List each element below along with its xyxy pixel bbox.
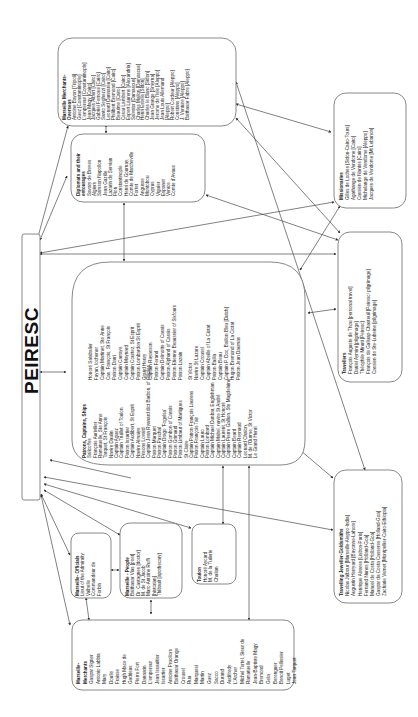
- node-item: Captain Delmotte of Cassis: [160, 324, 165, 380]
- node-item: Antoine Pruollors: [168, 648, 173, 684]
- node-item: Luget: [286, 672, 291, 684]
- node-item: Antonio Labbia: [96, 653, 101, 684]
- node-item: M. de St Jacob: [141, 565, 146, 596]
- node-item: François de Galluap-Chasteuil [Peiresc/ …: [366, 269, 371, 374]
- node-travellers[interactable]: TravellersFrançois Auguste de Thou [pers…: [338, 232, 402, 382]
- node-item: Samson Napollon: [97, 159, 102, 196]
- node-item: Leonard Chalon,: [243, 424, 248, 458]
- node-item: Patron Alphand of Cassis: [166, 328, 171, 380]
- node-missionaries[interactable]: MissionariesGilles de Loches [Sidon-Cair…: [334, 93, 406, 208]
- node-diplomats[interactable]: Diplomats and theirentouragesSavary de B…: [71, 134, 205, 202]
- node-item: Salicoffes: [87, 437, 92, 458]
- node-item: Ramatuelle, Ste Anne: [98, 413, 103, 458]
- node-title: Marseille-: [76, 662, 81, 684]
- node-item: Captain Truillet of Toulon: [119, 407, 124, 458]
- node-item: Doulle: [109, 671, 114, 684]
- node-item: Espanet: [161, 178, 166, 196]
- node-item: Patron Darri: [112, 355, 117, 380]
- edge-patrons-jewellers: [300, 450, 333, 478]
- node-item: Commandeur de: [91, 561, 96, 596]
- node-title: Travelling Jeweller-Goldsmiths: [339, 528, 344, 596]
- edge-peiresc-merchants-overseas: [38, 126, 68, 237]
- edge-peiresc-missionaries: [40, 202, 334, 253]
- node-item: Captain Pierre Gallion, Ste Magdelaine: [226, 378, 231, 458]
- node-item: Forbin: [97, 583, 102, 596]
- node-item: M. de l'Ourme, St Victor: [248, 409, 253, 458]
- edge-overseas-missionaries: [236, 104, 331, 132]
- node-item: Lazarin de Servian: [108, 157, 113, 196]
- node-item: Jean-Baptiste Magy: [253, 643, 258, 684]
- edge-officials-merchants: [86, 598, 89, 620]
- node-item: Chalian: [214, 566, 219, 582]
- node-item: Cassien de Nantes [Cairo]: [357, 146, 362, 200]
- node-marseille-people[interactable]: Marseille - PeopleBalthasar Vias [poet]D…: [120, 523, 182, 598]
- node-item: Jacques de Vendome [Mt Lebanon]: [369, 128, 374, 200]
- node-marseille-officials[interactable]: Marseille- OfficialsLieut of the Admiral…: [71, 533, 111, 598]
- node-title: Toulon: [197, 567, 202, 582]
- node-item: Balthasar Orange: [174, 648, 179, 684]
- node-item: M. de la Tuilerie: [208, 549, 213, 582]
- node-marseille-merchants[interactable]: Marseille-MerchantsGaspar SignerAntonio …: [72, 620, 297, 690]
- node-item: Daniel Aymini [pilgrimage]: [354, 321, 359, 374]
- node-item: Rua: [187, 675, 192, 684]
- node-text: Marseille Merchants-OverseasAntoine Bayo…: [62, 62, 190, 120]
- node-marseille-merchants-overseas[interactable]: Marseille Merchants-OverseasAntoine Bayo…: [58, 38, 236, 126]
- node-item: Navire Almaiye: [136, 427, 141, 458]
- node-item: Patron Etienne Beaussier of Sixfours: [172, 304, 177, 380]
- node-item: Henri de Gournay,: [124, 159, 129, 196]
- node-item: Théophile Minuti [Peiresc]: [360, 321, 365, 374]
- node-item: Captain Mabel, navire St André: [216, 394, 221, 458]
- node-item: Navire St Lazare: [194, 345, 199, 380]
- node-item: Captain Michael Dunbar, Englishman: [210, 382, 215, 458]
- node-item: Fayan, lochener: [94, 347, 99, 380]
- node-item: Lieut of the Admiralty: [80, 552, 85, 596]
- node-item: Honoré Aycard: [203, 551, 208, 582]
- node-item: Gadrieas: [128, 665, 133, 684]
- node-item: Captain Abeille of La Ciotat: [206, 324, 211, 380]
- node-item: Agathange de Vendome [Cairo]: [351, 136, 356, 200]
- node-item: Angusse: [140, 178, 145, 196]
- node-item: Captain Aguez: [114, 427, 119, 458]
- node-item: Jean Tarquet: [292, 657, 297, 684]
- node-item: Marc-Antoine Ruffi: [146, 558, 151, 596]
- node-patrons-captains-ships[interactable]: Patrons, Captains, ShipsSalicoffesFranço…: [72, 262, 305, 465]
- node-item: St Claire: [184, 440, 189, 458]
- node-item: Patron Lombard: [205, 425, 210, 458]
- node-item: Jean Gazille: [103, 170, 108, 196]
- node-item: Dr. Castagnes [doctor]: [136, 550, 141, 596]
- node-item: Patron Issartier: [125, 426, 130, 458]
- node-title: Missionaries: [339, 172, 344, 200]
- edge-peiresc-diplomats: [40, 176, 67, 240]
- node-item: Gaspar Signer: [89, 654, 94, 684]
- node-item: Hugon Bremond of La Ciotat: [230, 321, 235, 380]
- node-item: Captain Crousel: [200, 347, 205, 380]
- node-item: Gela: [266, 674, 271, 684]
- node-item: François Auguste de Thou [personal trave…: [348, 286, 353, 374]
- node-item: Jean Issaultier: [155, 654, 160, 684]
- node-item: St Victor: [188, 362, 193, 380]
- node-travelling-jeweller-goldsmiths[interactable]: Travelling Jeweller-GoldsmithsNicolas Ja…: [334, 470, 402, 603]
- node-item: Captain Maynard: [124, 345, 129, 380]
- node-item: Captain Patron François Laurens: [189, 390, 194, 458]
- node-item: Prisons Lovard: [141, 427, 146, 458]
- peiresc-node[interactable]: PEIRESC: [21, 234, 42, 500]
- edge-peiresc-jewellers: [44, 477, 333, 530]
- node-item: Comte de Marcheville: [129, 151, 134, 196]
- peiresc-label: PEIRESC: [21, 307, 42, 394]
- node-item: Gilles de Loches [Sidon-Cairo-Tours]: [345, 125, 350, 200]
- node-item: Gaspar da Costa Casseres [Holland-Goa]: [376, 511, 381, 596]
- node-item: Zacharie Vernet [Montpellier-Cairo-Ethio…: [382, 507, 387, 596]
- node-item: François Aurivilier: [93, 421, 98, 458]
- node-item: Captain Carraye: [118, 346, 123, 380]
- node-title: Merchants: [83, 661, 88, 684]
- node-item: Guez: [207, 672, 212, 684]
- node-item: Fraisse: [115, 668, 120, 684]
- node-item: Pion: [113, 186, 118, 196]
- node-item: Captain P. Doc, Baillon Bleu [Dutch]: [224, 307, 229, 380]
- node-toulon[interactable]: ToulonHonoré AycardM. de la TuilerieChal…: [192, 524, 236, 584]
- node-item: Patron Limbaut of Martigues: [178, 400, 183, 458]
- node-title: Marseille- Officials: [75, 555, 80, 596]
- node-item: Cassien de Ste-Lubeine [pilgrimage]: [372, 300, 377, 374]
- node-item: Thibault [apothecary]: [157, 553, 162, 596]
- node-item: Navire Daulin: [109, 430, 114, 458]
